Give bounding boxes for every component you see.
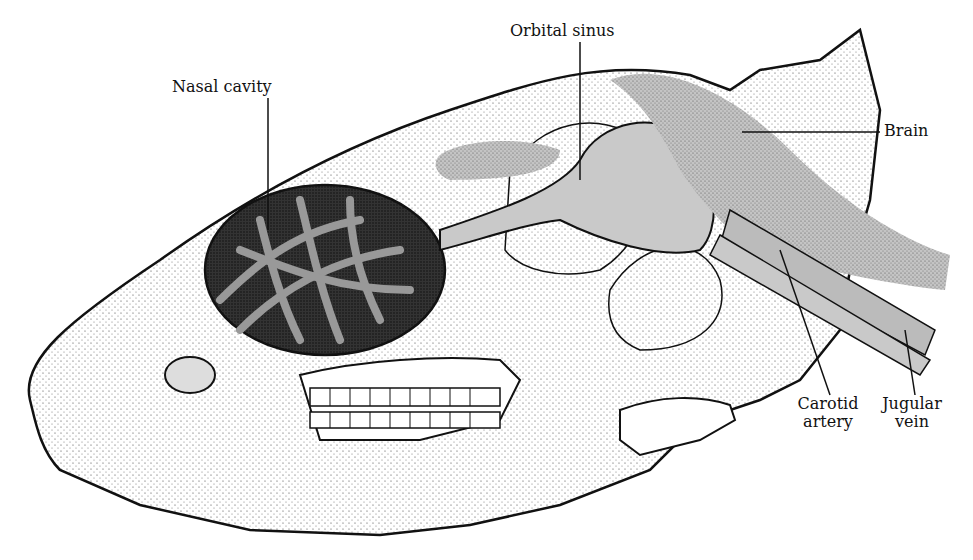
head-illustration	[0, 0, 973, 560]
nasal-cavity-label: Nasal cavity	[172, 78, 272, 96]
carotid-artery-label-line1: Carotid	[790, 395, 866, 413]
brain-label: Brain	[884, 122, 928, 140]
orbital-sinus-label: Orbital sinus	[510, 22, 614, 40]
jugular-vein-label: Jugular vein	[872, 395, 952, 431]
carotid-artery-label: Carotid artery	[790, 395, 866, 431]
diagram-canvas: Nasal cavity Orbital sinus Brain Carotid…	[0, 0, 973, 560]
jugular-vein-label-line1: Jugular	[872, 395, 952, 413]
jugular-vein-label-line2: vein	[872, 413, 952, 431]
skull-outline	[29, 30, 880, 535]
carotid-artery-label-line2: artery	[790, 413, 866, 431]
